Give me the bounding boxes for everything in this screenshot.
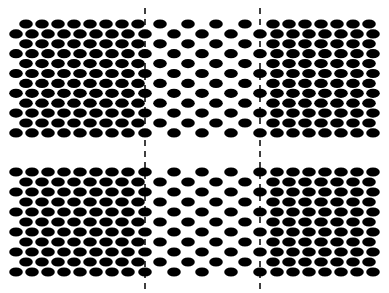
lattice-dot bbox=[83, 59, 97, 68]
lattice-dot bbox=[105, 109, 119, 118]
lattice-dot bbox=[298, 197, 312, 206]
lattice-dot bbox=[41, 128, 55, 137]
lattice-dot bbox=[51, 39, 65, 48]
lattice-dot bbox=[362, 39, 376, 48]
lattice-dot bbox=[131, 99, 145, 108]
lattice-dot bbox=[195, 29, 209, 38]
lattice-dot bbox=[362, 197, 376, 206]
lattice-dot bbox=[41, 89, 55, 98]
lattice-dot bbox=[9, 69, 23, 78]
lattice-dot bbox=[105, 167, 119, 176]
lattice-dot bbox=[181, 59, 195, 68]
lattice-dot bbox=[286, 227, 300, 236]
lattice-dot bbox=[362, 19, 376, 28]
lattice-dot bbox=[270, 227, 284, 236]
lattice-dot bbox=[131, 197, 145, 206]
lattice-dot bbox=[209, 19, 223, 28]
lattice-dot bbox=[73, 247, 87, 256]
lattice-dot bbox=[362, 217, 376, 226]
lattice-dot bbox=[89, 247, 103, 256]
lattice-dot bbox=[286, 89, 300, 98]
lattice-dot bbox=[9, 247, 23, 256]
lattice-dot bbox=[83, 177, 97, 186]
lattice-dot bbox=[67, 19, 81, 28]
lattice-dot bbox=[350, 187, 364, 196]
lattice-dot bbox=[121, 187, 135, 196]
lattice-dot bbox=[346, 217, 360, 226]
lattice-dot bbox=[57, 207, 71, 216]
lattice-dot bbox=[181, 237, 195, 246]
lattice-dot bbox=[121, 167, 135, 176]
lattice-dot bbox=[51, 19, 65, 28]
lattice-dot bbox=[9, 167, 23, 176]
lattice-dot bbox=[282, 237, 296, 246]
lattice-dot bbox=[121, 207, 135, 216]
lattice-dot bbox=[298, 59, 312, 68]
lattice-dot bbox=[209, 118, 223, 127]
lattice-dot bbox=[181, 19, 195, 28]
lattice-dot bbox=[57, 167, 71, 176]
lattice-dot bbox=[131, 39, 145, 48]
lattice-dot bbox=[302, 109, 316, 118]
lattice-dot bbox=[366, 69, 380, 78]
lattice-dot bbox=[41, 267, 55, 276]
lattice-dot bbox=[334, 267, 348, 276]
lattice-dot bbox=[270, 187, 284, 196]
lattice-dot bbox=[131, 257, 145, 266]
lattice-dot bbox=[57, 69, 71, 78]
lattice-dot bbox=[330, 39, 344, 48]
lattice-dot bbox=[302, 69, 316, 78]
lattice-dot bbox=[67, 197, 81, 206]
lattice-dot bbox=[314, 19, 328, 28]
lattice-dot bbox=[25, 227, 39, 236]
lattice-dot bbox=[99, 177, 113, 186]
lattice-dot bbox=[121, 89, 135, 98]
lattice-dot bbox=[238, 257, 252, 266]
lattice-dot bbox=[314, 99, 328, 108]
lattice-dot bbox=[57, 187, 71, 196]
lattice-dot bbox=[350, 109, 364, 118]
lattice-dot bbox=[67, 237, 81, 246]
lattice-dot bbox=[153, 79, 167, 88]
lattice-dot bbox=[195, 128, 209, 137]
lattice-dot bbox=[270, 109, 284, 118]
lattice-dot bbox=[282, 217, 296, 226]
lattice-dot bbox=[270, 267, 284, 276]
lattice-dot bbox=[9, 267, 23, 276]
lattice-dot bbox=[238, 197, 252, 206]
lattice-dot bbox=[302, 227, 316, 236]
lattice-dot bbox=[51, 118, 65, 127]
lattice-dot bbox=[209, 99, 223, 108]
lattice-dot bbox=[270, 128, 284, 137]
lattice-dot bbox=[298, 177, 312, 186]
lattice-dot bbox=[57, 267, 71, 276]
lattice-dot bbox=[302, 89, 316, 98]
lattice-dot bbox=[41, 49, 55, 58]
lattice-dot bbox=[19, 217, 33, 226]
lattice-dot bbox=[89, 167, 103, 176]
lattice-dot bbox=[153, 257, 167, 266]
lattice-dot bbox=[298, 79, 312, 88]
lattice-dot bbox=[314, 59, 328, 68]
lattice-dot bbox=[35, 79, 49, 88]
lattice-dot bbox=[67, 79, 81, 88]
lattice-dot bbox=[334, 128, 348, 137]
lattice-dot bbox=[238, 39, 252, 48]
lattice-dot bbox=[195, 89, 209, 98]
lattice-dot bbox=[181, 118, 195, 127]
lattice-dot bbox=[302, 247, 316, 256]
lattice-dot bbox=[318, 227, 332, 236]
lattice-dot bbox=[73, 89, 87, 98]
lattice-dot bbox=[318, 247, 332, 256]
lattice-dot bbox=[302, 207, 316, 216]
lattice-dot bbox=[224, 89, 238, 98]
lattice-dot bbox=[99, 99, 113, 108]
lattice-dot bbox=[19, 19, 33, 28]
lattice-dot bbox=[89, 109, 103, 118]
lattice-dot bbox=[314, 197, 328, 206]
lattice-dot bbox=[330, 217, 344, 226]
lattice-dot bbox=[366, 49, 380, 58]
lattice-dot bbox=[270, 89, 284, 98]
lattice-dot bbox=[270, 49, 284, 58]
lattice-dot bbox=[51, 59, 65, 68]
